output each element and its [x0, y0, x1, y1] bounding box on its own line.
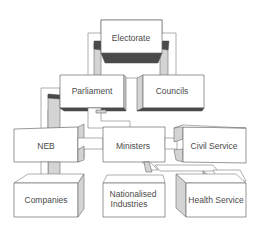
- label-councils: Councils: [156, 86, 189, 96]
- label-electorate: Electorate: [112, 33, 151, 43]
- label-neb: NEB: [37, 141, 55, 151]
- label-parliament: Parliament: [72, 86, 113, 96]
- connector-ministers-civil: [165, 125, 183, 162]
- node-parliament: Parliament: [60, 75, 126, 111]
- node-electorate: Electorate: [101, 20, 162, 53]
- node-neb: NEB: [14, 124, 84, 162]
- node-ministers: Ministers: [103, 127, 165, 162]
- label-companies: Companies: [25, 195, 68, 205]
- node-nationalised-industries: Nationalised Industries: [103, 175, 165, 217]
- connector-neb-ministers: [78, 138, 103, 162]
- node-companies: Companies: [14, 174, 84, 217]
- label-civil-service: Civil Service: [191, 141, 238, 151]
- label-ministers: Ministers: [116, 141, 150, 151]
- node-health-service: Health Service: [176, 174, 246, 217]
- label-nationalised-line1: Nationalised: [110, 189, 157, 199]
- label-nationalised-line2: Industries: [111, 199, 148, 209]
- node-councils: Councils: [137, 75, 204, 111]
- governance-diagram: Electorate Parliament Councils NEB: [0, 0, 261, 228]
- node-civil-service: Civil Service: [174, 125, 246, 163]
- label-health-service: Health Service: [188, 195, 244, 205]
